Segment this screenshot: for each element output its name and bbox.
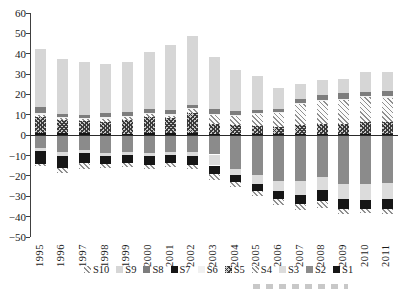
bar-segment-S3-2009: [338, 184, 349, 199]
legend-label-S1: S1: [342, 264, 353, 275]
bar-segment-S2-2007: [295, 136, 306, 181]
bar-segment-S8-2009: [338, 93, 349, 98]
bar-segment-S4-1997: [79, 119, 90, 121]
bar-segment-S5-1996: [57, 120, 68, 133]
bar-segment-S6-1998: [100, 117, 111, 119]
bar-segment-S9-1999: [122, 62, 133, 112]
bar-segment-S5-2011: [382, 122, 393, 134]
bar-segment-S7-2005: [252, 184, 263, 191]
bar-segment-S5-1997: [79, 121, 90, 133]
bar-segment-S10-1997: [79, 163, 90, 169]
bar-segment-S6-1996: [57, 117, 68, 118]
bar-segment-S2-2011: [382, 136, 393, 183]
bar-segment-S10-2011: [382, 209, 393, 213]
bar-segment-S7-2009: [338, 199, 349, 209]
bar-segment-S1-2008: [317, 134, 328, 135]
bar-segment-S7-2010: [360, 200, 371, 209]
bar-segment-S9-2010: [360, 72, 371, 92]
bar-segment-S5-2002: [187, 113, 198, 133]
bar-segment-S2-2002: [187, 136, 198, 152]
bar-segment-S8-2003: [209, 109, 220, 114]
bar-segment-S9-2003: [209, 57, 220, 109]
bar-segment-S3-2006: [273, 181, 284, 191]
x-tick-label-1995: 1995: [35, 241, 45, 267]
legend-label-S9: S9: [125, 264, 136, 275]
y-tick-label: 30: [0, 68, 26, 80]
bar-segment-S9-2005: [252, 76, 263, 110]
bar-segment-S2-2005: [252, 136, 263, 175]
legend-swatch-S1: [333, 266, 340, 273]
bar-segment-S8-1997: [79, 115, 90, 118]
bar-segment-S2-1995: [35, 136, 46, 148]
legend-label-S3: S3: [288, 264, 299, 275]
bar-segment-S9-1996: [57, 59, 68, 114]
bar-segment-S5-2004: [230, 125, 241, 134]
legend-swatch-S6: [198, 266, 205, 273]
bar-segment-S9-2006: [273, 88, 284, 108]
legend-item-S9: S9: [116, 264, 136, 275]
bar-segment-S6-2011: [382, 96, 393, 97]
bar-segment-S5-1998: [100, 122, 111, 134]
cropped-caption-fragment: [253, 284, 348, 289]
y-tick-label: −10: [0, 150, 26, 162]
y-tick-label: −30: [0, 190, 26, 202]
bar-segment-S2-1998: [100, 136, 111, 153]
legend-label-S6: S6: [207, 264, 218, 275]
legend-item-S4: S4: [252, 264, 272, 275]
legend-swatch-S10: [84, 266, 91, 273]
legend-swatch-S7: [171, 266, 178, 273]
legend: S10S9S8S7S6S5S4S3S2S1: [84, 264, 353, 275]
bar-segment-S8-2001: [165, 110, 176, 114]
bar-segment-S6-2006: [273, 112, 284, 113]
bar-segment-S10-2007: [295, 204, 306, 209]
bar-segment-S9-2001: [165, 45, 176, 110]
bar-segment-S7-2001: [165, 155, 176, 163]
bar-segment-S8-2006: [273, 109, 284, 112]
bar-segment-S10-2000: [144, 165, 155, 169]
bar-segment-S4-2004: [230, 116, 241, 125]
bar-segment-S2-2004: [230, 136, 241, 169]
bar-segment-S3-2010: [360, 184, 371, 200]
y-tick-label: 10: [0, 109, 26, 121]
bar-segment-S7-2007: [295, 195, 306, 204]
y-tick-label: 60: [0, 7, 26, 19]
bar-segment-S9-2009: [338, 79, 349, 93]
x-tick-label-2011: 2011: [381, 241, 391, 267]
legend-label-S5: S5: [234, 264, 245, 275]
bar-segment-S10-2005: [252, 191, 263, 196]
bar-segment-S7-2008: [317, 190, 328, 201]
bar-segment-S9-2004: [230, 70, 241, 111]
legend-swatch-S8: [143, 266, 150, 273]
bar-segment-S8-2000: [144, 109, 155, 113]
bar-segment-S6-2003: [209, 114, 220, 115]
bar-segment-S1-1995: [35, 133, 46, 135]
bar-segment-S8-2002: [187, 105, 198, 108]
bar-segment-S6-2001: [165, 114, 176, 116]
bar-segment-S6-2009: [338, 99, 349, 100]
x-tick-label-2010: 2010: [360, 241, 370, 267]
bar-segment-S1-1996: [57, 133, 68, 135]
bar-segment-S10-1999: [122, 163, 133, 167]
legend-item-S5: S5: [225, 264, 245, 275]
legend-label-S7: S7: [180, 264, 191, 275]
bar-segment-S3-2007: [295, 181, 306, 195]
bar-segment-S9-2000: [144, 52, 155, 109]
bar-segment-S4-2010: [360, 97, 371, 122]
bar-segment-S3-2003: [209, 155, 220, 166]
y-tick-label: −50: [0, 231, 26, 243]
bar-segment-S4-2008: [317, 101, 328, 124]
bar-segment-S7-1999: [122, 155, 133, 163]
bar-segment-S8-2010: [360, 92, 371, 96]
legend-item-S6: S6: [198, 264, 218, 275]
bar-segment-S6-2005: [252, 113, 263, 114]
bar-segment-S4-2009: [338, 100, 349, 124]
bar-segment-S4-2006: [273, 113, 284, 127]
bar-segment-S5-2000: [144, 117, 155, 133]
bar-segment-S2-2009: [338, 136, 349, 184]
bar-segment-S8-2005: [252, 110, 263, 113]
bar-segment-S1-2009: [338, 134, 349, 135]
legend-label-S10: S10: [93, 264, 109, 275]
bar-segment-S4-1995: [35, 115, 46, 117]
bar-segment-S6-2002: [187, 108, 198, 109]
bar-segment-S3-2008: [317, 177, 328, 190]
